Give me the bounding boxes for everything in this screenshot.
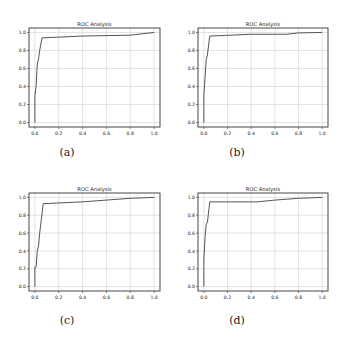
y-tick-label: 0.2 <box>19 266 26 271</box>
x-tick-label: 0.8 <box>295 131 302 136</box>
panel-caption-c: (c) <box>47 314 87 327</box>
y-tick-label: 0.4 <box>188 249 195 254</box>
x-tick-label: 0.8 <box>127 295 134 300</box>
panel-caption-d: (d) <box>217 314 257 327</box>
x-tick-label: 0.0 <box>31 295 38 300</box>
x-tick-label: 0.6 <box>103 131 110 136</box>
y-tick-label: 0.4 <box>188 84 195 89</box>
y-tick-label: 0.0 <box>19 284 26 289</box>
x-tick-label: 0.8 <box>295 295 302 300</box>
y-tick-label: 0.2 <box>188 102 195 107</box>
y-tick-label: 0.6 <box>188 231 195 236</box>
panel-caption-b: (b) <box>217 146 257 159</box>
x-tick-label: 0.8 <box>127 131 134 136</box>
x-tick-label: 1.0 <box>318 131 325 136</box>
y-tick-label: 0.0 <box>188 284 195 289</box>
x-tick-label: 0.2 <box>224 131 231 136</box>
y-tick-label: 0.6 <box>19 66 26 71</box>
y-tick-label: 1.0 <box>188 30 195 35</box>
x-tick-label: 0.6 <box>103 295 110 300</box>
x-tick-label: 0.6 <box>271 295 278 300</box>
y-tick-label: 0.0 <box>19 120 26 125</box>
y-tick-label: 1.0 <box>19 30 26 35</box>
panel-caption-a: (a) <box>47 146 87 159</box>
y-tick-label: 1.0 <box>19 195 26 200</box>
x-tick-label: 0.0 <box>200 131 207 136</box>
x-tick-label: 0.0 <box>200 295 207 300</box>
x-tick-label: 0.4 <box>248 295 255 300</box>
y-tick-label: 0.8 <box>188 213 195 218</box>
roc-chart-b: 0.00.20.40.60.81.00.00.20.40.60.81.0ROC … <box>0 0 347 342</box>
chart-title: ROC Analysis <box>77 21 112 28</box>
x-tick-label: 0.4 <box>79 131 86 136</box>
x-tick-label: 0.0 <box>31 131 38 136</box>
axes-frame <box>29 28 160 127</box>
y-tick-label: 1.0 <box>188 195 195 200</box>
x-tick-label: 1.0 <box>318 295 325 300</box>
x-tick-label: 0.2 <box>224 295 231 300</box>
x-tick-label: 0.4 <box>79 295 86 300</box>
y-tick-label: 0.0 <box>188 120 195 125</box>
y-tick-label: 0.8 <box>19 213 26 218</box>
y-tick-label: 0.6 <box>188 66 195 71</box>
roc-chart-d: 0.00.20.40.60.81.00.00.20.40.60.81.0ROC … <box>0 0 347 342</box>
y-tick-label: 0.8 <box>19 48 26 53</box>
y-tick-label: 0.2 <box>19 102 26 107</box>
x-tick-label: 0.2 <box>55 295 62 300</box>
y-tick-label: 0.4 <box>19 84 26 89</box>
x-tick-label: 1.0 <box>150 295 157 300</box>
y-tick-label: 0.4 <box>19 249 26 254</box>
y-tick-label: 0.8 <box>188 48 195 53</box>
y-tick-label: 0.2 <box>188 266 195 271</box>
x-tick-label: 0.4 <box>248 131 255 136</box>
y-tick-label: 0.6 <box>19 231 26 236</box>
axes-frame <box>198 28 328 127</box>
roc-chart-a: 0.00.20.40.60.81.00.00.20.40.60.81.0ROC … <box>0 0 347 342</box>
roc-chart-c: 0.00.20.40.60.81.00.00.20.40.60.81.0ROC … <box>0 0 347 342</box>
chart-title: ROC Analysis <box>77 186 112 193</box>
roc-curve-line <box>204 32 322 122</box>
axes-frame <box>29 193 160 291</box>
x-tick-label: 0.2 <box>55 131 62 136</box>
roc-curve-line <box>35 197 154 286</box>
roc-curve-line <box>35 32 154 122</box>
chart-title: ROC Analysis <box>246 186 281 193</box>
x-tick-label: 1.0 <box>150 131 157 136</box>
x-tick-label: 0.6 <box>271 131 278 136</box>
chart-title: ROC Analysis <box>246 21 281 28</box>
roc-curve-line <box>204 197 322 286</box>
axes-frame <box>198 193 328 291</box>
